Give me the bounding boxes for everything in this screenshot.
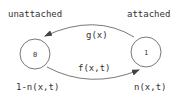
state-1-label: 1	[144, 49, 148, 57]
state-0-label: 0	[33, 51, 37, 59]
state-1-name: attached	[127, 10, 170, 19]
transition-f-label: f(x,t)	[78, 64, 111, 73]
state-1-probability: n(x,t)	[134, 83, 167, 92]
transition-g-label: g(x)	[86, 31, 108, 40]
state-0-name: unattached	[8, 10, 62, 19]
state-0-probability: 1-n(x,t)	[16, 83, 59, 92]
